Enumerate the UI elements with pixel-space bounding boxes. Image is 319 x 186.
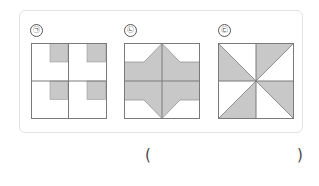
figure-2-graphic (124, 43, 200, 119)
figure-1-graphic (31, 43, 107, 119)
figure-label-1: ㉠ (30, 24, 43, 37)
figure-label-3: ㉢ (218, 24, 231, 37)
figure-1[interactable] (31, 43, 107, 119)
figure-2[interactable] (124, 43, 200, 119)
figure-3-graphic (218, 43, 294, 119)
answer-blank[interactable] (156, 146, 294, 166)
answer-open-paren: ( (145, 146, 151, 164)
figure-label-2: ㉡ (124, 24, 137, 37)
figure-3[interactable] (218, 43, 294, 119)
answer-close-paren: ) (297, 146, 303, 164)
